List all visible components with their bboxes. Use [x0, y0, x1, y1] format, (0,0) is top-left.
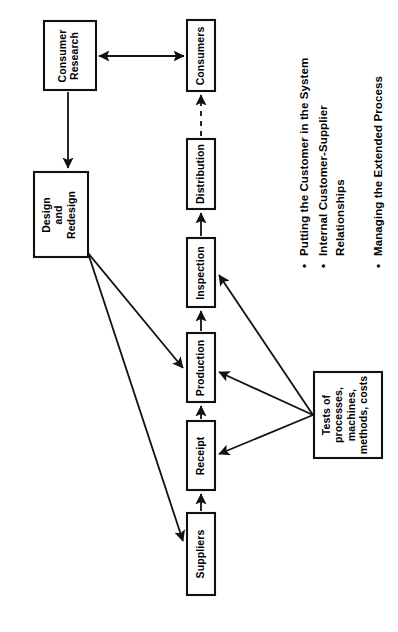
- connector-tests-to-receipt: [219, 415, 313, 454]
- connector-design-to-production: [88, 253, 183, 368]
- bullet-text-1: Putting the Customer in the System: [296, 58, 313, 256]
- bullet-text-2b: Relationships: [332, 105, 349, 256]
- diagram-canvas: Consumer Research Consumers Design and R…: [0, 0, 398, 632]
- bullet-marker-3: •: [370, 256, 387, 268]
- bullet-marker-1: •: [296, 256, 313, 268]
- bullet-text-3: Managing the Extended Process: [370, 76, 387, 256]
- bullet-text-2a: Internal Customer-Supplier: [315, 105, 332, 256]
- bullet-marker-2: •: [315, 256, 332, 268]
- connector-design-to-suppliers: [88, 253, 183, 541]
